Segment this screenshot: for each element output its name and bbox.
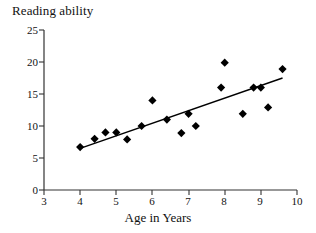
data-point <box>76 143 84 151</box>
data-point <box>137 122 145 130</box>
x-axis-ticks <box>44 190 297 195</box>
plot-area <box>0 0 316 233</box>
data-points-group <box>76 59 287 152</box>
data-point <box>239 110 247 118</box>
data-point <box>101 128 109 136</box>
data-point <box>264 103 272 111</box>
data-point <box>148 96 156 104</box>
data-point <box>278 65 286 73</box>
data-point <box>123 135 131 143</box>
axes-group <box>39 30 297 195</box>
data-point <box>177 129 185 137</box>
data-point <box>192 122 200 130</box>
scatter-chart-figure: Reading ability 25 20 15 10 5 0 3 4 5 6 … <box>0 0 316 233</box>
data-point <box>250 84 258 92</box>
data-point <box>221 59 229 67</box>
y-axis-ticks <box>39 30 44 190</box>
data-point <box>217 84 225 92</box>
